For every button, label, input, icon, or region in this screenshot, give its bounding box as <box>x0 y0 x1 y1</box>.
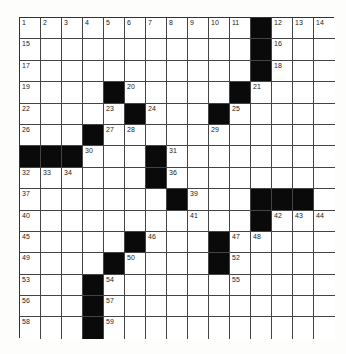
grid-cell[interactable]: 12 <box>272 18 293 39</box>
grid-cell[interactable]: 7 <box>146 18 167 39</box>
grid-cell[interactable] <box>125 61 146 82</box>
grid-cell[interactable]: 50 <box>125 253 146 274</box>
grid-cell[interactable]: 1 <box>20 18 41 39</box>
grid-cell[interactable]: 48 <box>251 232 272 253</box>
grid-cell[interactable] <box>272 275 293 296</box>
grid-cell[interactable] <box>104 146 125 167</box>
grid-cell[interactable] <box>62 61 83 82</box>
grid-cell[interactable] <box>293 125 314 146</box>
grid-cell[interactable]: 22 <box>20 104 41 125</box>
grid-cell[interactable] <box>83 39 104 60</box>
grid-cell[interactable]: 25 <box>230 104 251 125</box>
grid-cell[interactable] <box>272 168 293 189</box>
grid-cell[interactable] <box>146 82 167 103</box>
grid-cell[interactable] <box>41 189 62 210</box>
grid-cell[interactable] <box>167 125 188 146</box>
grid-cell[interactable]: 47 <box>230 232 251 253</box>
grid-cell[interactable] <box>209 61 230 82</box>
grid-cell[interactable] <box>125 146 146 167</box>
grid-cell[interactable] <box>272 146 293 167</box>
grid-cell[interactable] <box>104 39 125 60</box>
grid-cell[interactable] <box>104 211 125 232</box>
grid-cell[interactable] <box>230 39 251 60</box>
grid-cell[interactable]: 57 <box>104 296 125 317</box>
grid-cell[interactable] <box>293 168 314 189</box>
grid-cell[interactable] <box>125 168 146 189</box>
grid-cell[interactable]: 56 <box>20 296 41 317</box>
grid-cell[interactable] <box>146 211 167 232</box>
grid-cell[interactable] <box>251 317 272 338</box>
grid-cell[interactable]: 42 <box>272 211 293 232</box>
grid-cell[interactable]: 6 <box>125 18 146 39</box>
grid-cell[interactable]: 13 <box>293 18 314 39</box>
grid-cell[interactable]: 29 <box>209 125 230 146</box>
grid-cell[interactable] <box>209 168 230 189</box>
grid-cell[interactable] <box>83 232 104 253</box>
grid-cell[interactable] <box>146 253 167 274</box>
grid-cell[interactable] <box>62 296 83 317</box>
grid-cell[interactable] <box>293 104 314 125</box>
grid-cell[interactable] <box>146 189 167 210</box>
grid-cell[interactable] <box>293 253 314 274</box>
grid-cell[interactable]: 37 <box>20 189 41 210</box>
grid-cell[interactable] <box>314 275 335 296</box>
grid-cell[interactable] <box>272 317 293 338</box>
grid-cell[interactable]: 55 <box>230 275 251 296</box>
grid-cell[interactable] <box>41 253 62 274</box>
grid-cell[interactable] <box>251 125 272 146</box>
grid-cell[interactable]: 39 <box>188 189 209 210</box>
grid-cell[interactable] <box>83 211 104 232</box>
grid-cell[interactable] <box>188 104 209 125</box>
grid-cell[interactable] <box>209 296 230 317</box>
grid-cell[interactable] <box>314 253 335 274</box>
grid-cell[interactable] <box>41 317 62 338</box>
grid-cell[interactable] <box>146 61 167 82</box>
grid-cell[interactable]: 2 <box>41 18 62 39</box>
grid-cell[interactable]: 4 <box>83 18 104 39</box>
grid-cell[interactable]: 10 <box>209 18 230 39</box>
grid-cell[interactable] <box>62 82 83 103</box>
grid-cell[interactable] <box>146 296 167 317</box>
grid-cell[interactable] <box>251 146 272 167</box>
grid-cell[interactable] <box>293 39 314 60</box>
grid-cell[interactable] <box>62 317 83 338</box>
grid-cell[interactable] <box>41 82 62 103</box>
grid-cell[interactable]: 18 <box>272 61 293 82</box>
grid-cell[interactable]: 17 <box>20 61 41 82</box>
grid-cell[interactable] <box>62 232 83 253</box>
grid-cell[interactable]: 59 <box>104 317 125 338</box>
grid-cell[interactable] <box>62 189 83 210</box>
grid-cell[interactable]: 41 <box>188 211 209 232</box>
grid-cell[interactable] <box>230 317 251 338</box>
grid-cell[interactable] <box>41 104 62 125</box>
grid-cell[interactable] <box>251 104 272 125</box>
grid-cell[interactable] <box>209 39 230 60</box>
grid-cell[interactable] <box>251 168 272 189</box>
grid-cell[interactable] <box>167 39 188 60</box>
grid-cell[interactable] <box>188 39 209 60</box>
grid-cell[interactable]: 36 <box>167 168 188 189</box>
grid-cell[interactable] <box>314 61 335 82</box>
grid-cell[interactable] <box>188 317 209 338</box>
grid-cell[interactable] <box>62 104 83 125</box>
grid-cell[interactable]: 27 <box>104 125 125 146</box>
grid-cell[interactable]: 3 <box>62 18 83 39</box>
grid-cell[interactable]: 26 <box>20 125 41 146</box>
grid-cell[interactable] <box>251 253 272 274</box>
grid-cell[interactable]: 28 <box>125 125 146 146</box>
grid-cell[interactable] <box>293 317 314 338</box>
grid-cell[interactable] <box>125 317 146 338</box>
grid-cell[interactable] <box>62 253 83 274</box>
grid-cell[interactable] <box>104 189 125 210</box>
grid-cell[interactable] <box>188 253 209 274</box>
grid-cell[interactable] <box>188 232 209 253</box>
grid-cell[interactable] <box>83 104 104 125</box>
grid-cell[interactable] <box>188 168 209 189</box>
grid-cell[interactable]: 54 <box>104 275 125 296</box>
grid-cell[interactable]: 16 <box>272 39 293 60</box>
grid-cell[interactable] <box>293 232 314 253</box>
grid-cell[interactable] <box>146 39 167 60</box>
grid-cell[interactable] <box>272 296 293 317</box>
grid-cell[interactable] <box>314 189 335 210</box>
grid-cell[interactable] <box>41 125 62 146</box>
